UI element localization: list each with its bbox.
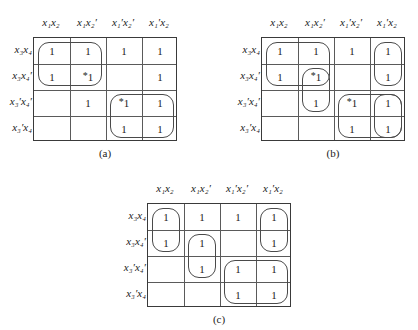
cell-value: 1 [352, 97, 358, 109]
kmap-caption-c: (c) [189, 313, 249, 325]
cell-value: 1 [85, 45, 91, 57]
column-header-c-3: x₁′x₂′ [219, 182, 255, 194]
column-header-b-4: x₁′x₂ [369, 16, 405, 28]
cell-value: 1 [157, 45, 163, 57]
column-header-c-2: x₁x₂′ [183, 182, 219, 194]
kmap-cell-b-r3c2: 1 [298, 90, 334, 116]
kmap-caption-b: (b) [303, 147, 363, 159]
kmap-cell-a-r3c2: 1 [70, 90, 106, 116]
kmap-cell-a-r4c1 [34, 116, 70, 142]
column-header-b-1: x₁x₂ [261, 16, 297, 28]
kmap-cell-a-r3c1 [34, 90, 70, 116]
cell-value: 1 [385, 45, 391, 57]
column-header-a-3: x₁′x₂′ [105, 16, 141, 28]
kmap-cell-c-r2c3 [220, 230, 256, 256]
kmap-grid-b: 11111*111*1111 [261, 37, 405, 141]
kmap-cell-b-r4c3: 1 [334, 116, 370, 142]
kmap-cell-a-r2c2: *1 [70, 64, 106, 90]
kmap-cell-a-r1c4: 1 [142, 38, 178, 64]
kmap-cell-b-r1c2: 1 [298, 38, 334, 64]
column-header-a-4: x₁′x₂ [141, 16, 177, 28]
kmap-cell-a-r3c4: 1 [142, 90, 178, 116]
essential-marker: * [83, 71, 88, 81]
kmap-cell-c-r4c3: 1 [220, 282, 256, 308]
row-header-a-2: x₃x₄′ [0, 69, 32, 81]
cell-value: 1 [349, 123, 355, 135]
kmap-cell-c-r4c2 [184, 282, 220, 308]
kmap-cell-a-r2c4: 1 [142, 64, 178, 90]
kmap-cell-b-r2c1: 1 [262, 64, 298, 90]
cell-value: 1 [271, 211, 277, 223]
kmap-cell-c-r1c1: 1 [148, 204, 184, 230]
kmap-cell-c-r3c3: 1 [220, 256, 256, 282]
cell-value: 1 [199, 263, 205, 275]
cell-value: 1 [163, 211, 169, 223]
cell-value: 1 [316, 71, 322, 83]
essential-marker: * [347, 97, 352, 107]
row-header-a-3: x₃′x₄′ [0, 95, 32, 107]
kmap-cell-c-r4c4: 1 [256, 282, 292, 308]
row-header-a-4: x₃′x₄ [0, 121, 32, 133]
cell-value: 1 [313, 45, 319, 57]
cell-value: 1 [157, 123, 163, 135]
kmap-cell-c-r1c2: 1 [184, 204, 220, 230]
cell-value: 1 [49, 71, 55, 83]
kmap-cell-b-r2c2: *1 [298, 64, 334, 90]
column-header-c-1: x₁x₂ [147, 182, 183, 194]
row-header-b-1: x₃x₄ [228, 43, 260, 55]
row-header-c-4: x₃′x₄ [114, 287, 146, 299]
kmap-cell-c-r2c2: 1 [184, 230, 220, 256]
column-header-b-3: x₁′x₂′ [333, 16, 369, 28]
kmap-cell-b-r3c4: 1 [370, 90, 406, 116]
kmap-caption-a: (a) [75, 147, 135, 159]
cell-value: 1 [313, 97, 319, 109]
cell-value: 1 [277, 71, 283, 83]
column-header-a-1: x₁x₂ [33, 16, 69, 28]
kmap-cell-b-r2c3 [334, 64, 370, 90]
cell-value: 1 [157, 97, 163, 109]
kmap-cell-a-r2c3 [106, 64, 142, 90]
cell-value: 1 [199, 237, 205, 249]
cell-value: 1 [235, 289, 241, 301]
kmap-cell-b-r3c1 [262, 90, 298, 116]
row-header-c-3: x₃′x₄′ [114, 261, 146, 273]
kmap-cell-a-r1c2: 1 [70, 38, 106, 64]
kmap-cell-b-r3c3: *1 [334, 90, 370, 116]
kmap-cell-a-r4c4: 1 [142, 116, 178, 142]
cell-value: 1 [121, 45, 127, 57]
kmap-cell-b-r1c4: 1 [370, 38, 406, 64]
kmap-cell-a-r4c2 [70, 116, 106, 142]
kmap-cell-b-r1c1: 1 [262, 38, 298, 64]
row-header-c-2: x₃x₄′ [114, 235, 146, 247]
cell-value: 1 [235, 211, 241, 223]
kmap-cell-c-r3c4: 1 [256, 256, 292, 282]
kmap-cell-a-r4c3: 1 [106, 116, 142, 142]
row-header-b-2: x₃x₄′ [228, 69, 260, 81]
row-header-b-4: x₃′x₄ [228, 121, 260, 133]
kmap-cell-c-r2c1: 1 [148, 230, 184, 256]
column-header-a-2: x₁x₂′ [69, 16, 105, 28]
kmap-grid-c: 111111111111 [147, 203, 291, 307]
kmap-cell-b-r4c4: 1 [370, 116, 406, 142]
kmap-cell-c-r3c1 [148, 256, 184, 282]
kmap-cell-c-r1c3: 1 [220, 204, 256, 230]
column-header-c-4: x₁′x₂ [255, 182, 291, 194]
cell-value: 1 [385, 123, 391, 135]
cell-value: 1 [235, 263, 241, 275]
cell-value: 1 [349, 45, 355, 57]
kmap-cell-a-r2c1: 1 [34, 64, 70, 90]
cell-value: 1 [157, 71, 163, 83]
cell-value: 1 [163, 237, 169, 249]
cell-value: 1 [271, 237, 277, 249]
essential-marker: * [311, 71, 316, 81]
kmap-cell-c-r3c2: 1 [184, 256, 220, 282]
cell-value: 1 [88, 71, 94, 83]
column-header-b-2: x₁x₂′ [297, 16, 333, 28]
kmap-cell-a-r1c1: 1 [34, 38, 70, 64]
cell-value: 1 [271, 289, 277, 301]
kmap-cell-b-r2c4: 1 [370, 64, 406, 90]
row-header-a-1: x₃x₄ [0, 43, 32, 55]
kmap-cell-c-r4c1 [148, 282, 184, 308]
cell-value: 1 [49, 45, 55, 57]
kmap-cell-b-r4c1 [262, 116, 298, 142]
